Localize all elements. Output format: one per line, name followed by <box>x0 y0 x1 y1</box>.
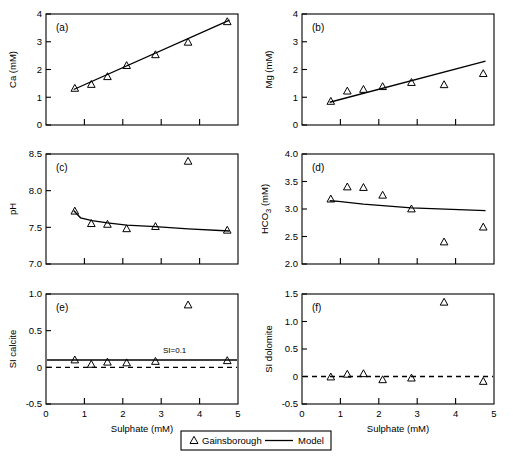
data-point-marker <box>479 223 487 230</box>
panel-tag: (f) <box>312 302 321 313</box>
x-tick-label: 1 <box>338 408 343 419</box>
data-point-marker <box>88 360 96 367</box>
panel-d: 2.02.53.03.54.0(d)HCO3 (mM) <box>259 148 494 269</box>
data-point-marker <box>71 207 79 214</box>
y-axis-title: HCO3 (mM) <box>259 184 273 234</box>
data-point-marker <box>104 358 112 365</box>
x-tick-label: 5 <box>235 408 240 419</box>
y-tick-label: 0 <box>37 362 42 373</box>
model-line <box>74 210 230 231</box>
figure-root: 01234(a)Ca (mM)01234(b)Mg (mM)7.07.58.08… <box>0 0 513 464</box>
plot-frame <box>302 14 494 125</box>
data-point-marker <box>360 370 368 377</box>
legend-label-model: Model <box>298 435 324 446</box>
data-point-marker <box>344 87 352 94</box>
data-point-marker <box>440 81 448 88</box>
x-tick-label: 0 <box>43 408 48 419</box>
y-tick-label: 1 <box>37 92 42 103</box>
panel-a: 01234(a)Ca (mM) <box>7 8 238 130</box>
x-tick-label: 0 <box>299 408 304 419</box>
x-tick-label: 1 <box>82 408 87 419</box>
y-tick-label: 4.0 <box>285 148 298 159</box>
panel-tag: (a) <box>56 22 68 33</box>
model-line <box>330 201 486 211</box>
plot-frame <box>302 294 494 404</box>
data-point-marker <box>408 374 416 381</box>
y-tick-label: 0 <box>293 119 298 130</box>
model-line <box>74 20 230 89</box>
data-point-marker <box>360 184 368 191</box>
legend-label-gainsborough: Gainsborough <box>202 435 262 446</box>
x-tick-label: 2 <box>376 408 381 419</box>
data-point-marker <box>440 298 448 305</box>
y-tick-label: -0.5 <box>26 398 42 409</box>
y-tick-label: 2.5 <box>285 231 298 242</box>
data-point-marker <box>223 226 231 233</box>
data-point-marker <box>152 357 160 364</box>
data-point-marker <box>344 370 352 377</box>
x-tick-label: 4 <box>197 408 202 419</box>
y-tick-label: 4 <box>293 8 298 19</box>
y-tick-label: 3.0 <box>285 203 298 214</box>
y-tick-label: 3.5 <box>285 176 298 187</box>
y-tick-label: 1.0 <box>29 288 42 299</box>
y-axis-title: SI dolomite <box>263 325 274 373</box>
y-tick-label: 0.5 <box>285 343 298 354</box>
y-axis-title: SI calcite <box>7 330 18 369</box>
data-point-marker <box>440 238 448 245</box>
y-tick-label: 0.5 <box>29 325 42 336</box>
y-tick-label: 1 <box>293 92 298 103</box>
y-axis-title: Ca (mM) <box>7 51 18 88</box>
model-line <box>330 61 486 102</box>
y-tick-label: 0 <box>37 119 42 130</box>
plot-frame <box>46 154 238 264</box>
panel-tag: (c) <box>56 162 68 173</box>
annotation-label: SI=0.1 <box>163 346 187 355</box>
y-tick-label: 3 <box>293 36 298 47</box>
y-tick-label: 0 <box>293 371 298 382</box>
plot-frame <box>46 294 238 404</box>
y-tick-label: 3 <box>37 36 42 47</box>
multi-panel-scatter-figure: 01234(a)Ca (mM)01234(b)Mg (mM)7.07.58.08… <box>0 0 513 464</box>
y-tick-label: -0.5 <box>282 398 298 409</box>
x-axis-title: Sulphate (mM) <box>367 423 429 434</box>
panel-f: -0.500.51.01.5012345(f)SI dolomiteSulpha… <box>263 288 497 434</box>
y-tick-label: 7.5 <box>29 222 42 233</box>
y-tick-label: 2.0 <box>285 258 298 269</box>
y-tick-label: 2 <box>293 64 298 75</box>
legend: GainsboroughModel <box>181 431 331 450</box>
x-tick-label: 5 <box>491 408 496 419</box>
x-tick-label: 2 <box>120 408 125 419</box>
panel-c: 7.07.58.08.5(c)pH <box>7 148 238 269</box>
y-tick-label: 2 <box>37 64 42 75</box>
panel-tag: (b) <box>312 22 324 33</box>
data-point-marker <box>379 191 387 198</box>
x-tick-label: 3 <box>415 408 420 419</box>
panel-b: 01234(b)Mg (mM) <box>263 8 494 130</box>
data-point-marker <box>184 157 192 164</box>
data-point-marker <box>479 377 487 384</box>
data-point-marker <box>184 301 192 308</box>
y-tick-label: 8.5 <box>29 148 42 159</box>
data-point-marker <box>360 85 368 92</box>
data-point-marker <box>479 70 487 77</box>
x-tick-label: 3 <box>159 408 164 419</box>
plot-frame <box>46 14 238 125</box>
panel-tag: (d) <box>312 162 324 173</box>
panel-tag: (e) <box>56 302 68 313</box>
y-tick-label: 1.0 <box>285 316 298 327</box>
y-axis-title: pH <box>7 203 18 215</box>
x-tick-label: 4 <box>453 408 458 419</box>
x-axis-title: Sulphate (mM) <box>111 423 173 434</box>
y-tick-label: 7.0 <box>29 258 42 269</box>
plot-frame <box>302 154 494 264</box>
y-tick-label: 4 <box>37 8 42 19</box>
y-tick-label: 1.5 <box>285 288 298 299</box>
y-tick-label: 8.0 <box>29 185 42 196</box>
y-axis-title: Mg (mM) <box>263 51 274 89</box>
panel-e: -0.500.51.0012345(e)SI=0.1SI calciteSulp… <box>7 288 241 434</box>
data-point-marker <box>344 183 352 190</box>
